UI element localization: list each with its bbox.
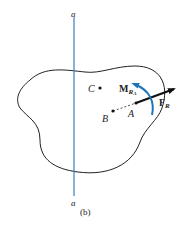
axis-label-bottom: a [71, 198, 76, 208]
axis-label-top: a [71, 9, 76, 19]
figure-caption: (b) [80, 207, 91, 217]
force-arrow [136, 89, 174, 103]
force-label: FR [159, 97, 170, 110]
diagram-canvas: a a C B A FR MRA (b) [0, 0, 187, 226]
point-b-dot [111, 109, 114, 112]
point-b-label: B [102, 113, 108, 124]
point-c-label: C [88, 83, 95, 94]
point-c-dot [98, 86, 101, 89]
point-a-label: A [127, 108, 135, 119]
